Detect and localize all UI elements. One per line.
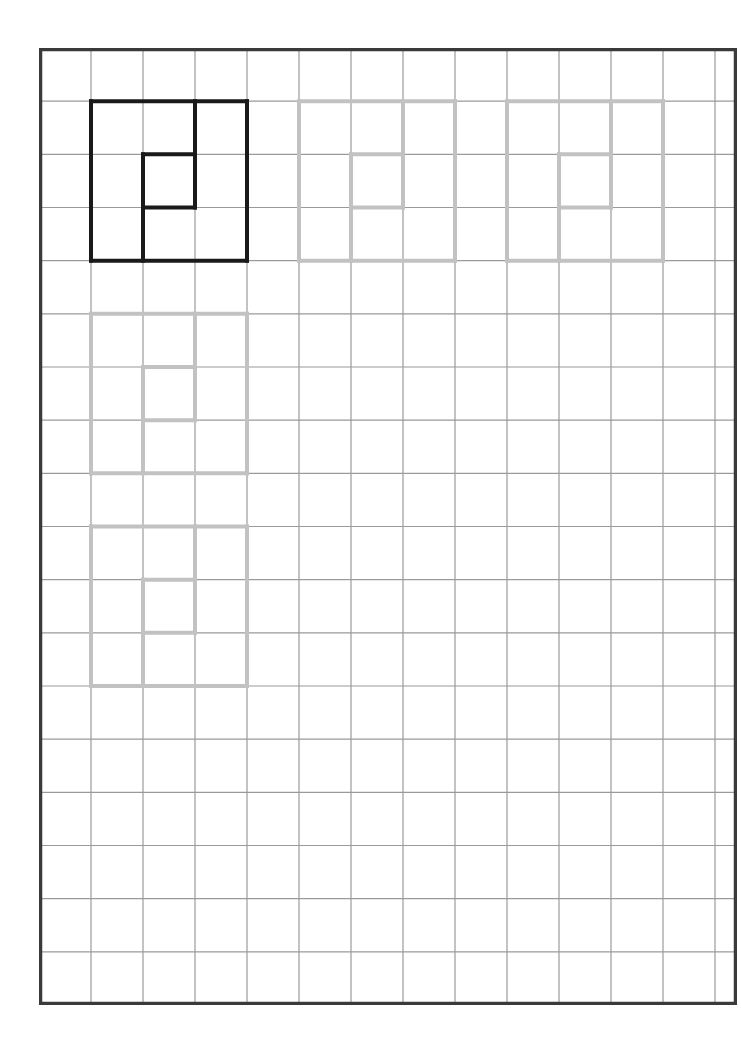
grid-worksheet <box>39 48 737 1005</box>
trace-pattern-1 <box>299 101 455 261</box>
example-pattern <box>91 101 247 261</box>
trace-pattern-2 <box>507 101 663 261</box>
grid-canvas <box>39 48 737 1005</box>
pattern-shapes <box>91 101 663 686</box>
trace-pattern-3 <box>91 314 247 474</box>
trace-pattern-4 <box>91 527 247 687</box>
